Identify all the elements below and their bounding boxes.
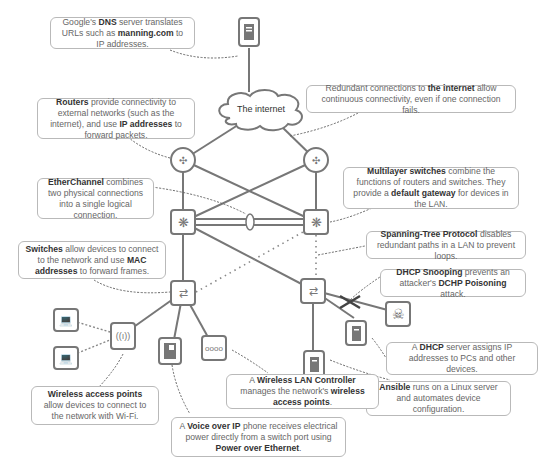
dns-server-node[interactable]: [238, 17, 260, 47]
laptop-1[interactable]: 💻: [53, 308, 79, 332]
switch-icon: ⇄: [309, 285, 318, 298]
switch-left[interactable]: ⇄: [170, 280, 196, 306]
note-wlc: A Wireless LAN Controller manages the ne…: [226, 374, 379, 409]
internet-label: The internet: [237, 104, 285, 114]
router-right[interactable]: ✣: [303, 147, 329, 173]
note-multilayer: Multilayer switches combine the function…: [343, 167, 519, 209]
note-switches: Switches allow devices to connect to the…: [18, 241, 166, 279]
multilayer-switch-icon: ❋: [178, 215, 189, 230]
multilayer-switch-icon: ❋: [311, 215, 322, 230]
wireless-ap-node[interactable]: ((ı)): [110, 322, 136, 350]
note-stp: Spanning-Tree Protocol disables redundan…: [366, 231, 526, 259]
wlc-node[interactable]: oooo: [201, 335, 227, 361]
switch-icon: ⇄: [179, 287, 188, 300]
laptop-icon: 💻: [59, 314, 73, 327]
note-redundant: Redundant connections to the internet al…: [306, 85, 516, 113]
note-dns: Google's DNS server translates URLs such…: [50, 17, 195, 49]
multilayer-switch-right[interactable]: ❋: [303, 209, 329, 235]
note-dhcp-server: A DHCP server assigns IP addresses to PC…: [386, 342, 538, 375]
ip-phone-node[interactable]: [158, 337, 182, 365]
switch-right[interactable]: ⇄: [300, 278, 326, 304]
router-icon: ✣: [312, 155, 320, 166]
note-etherchannel: EtherChannel combines two physical conne…: [37, 178, 154, 219]
wireless-ap-icon: ((ı)): [116, 331, 131, 341]
server-icon: [310, 357, 319, 372]
note-ansible: Ansible runs on a Linux server and autom…: [366, 381, 511, 416]
note-voip: A Voice over IP phone receives electrica…: [171, 417, 346, 457]
note-wap: Wireless access points allow devices to …: [31, 386, 159, 425]
ip-phone-icon: [164, 343, 176, 359]
router-icon: ✣: [179, 155, 187, 166]
laptop-icon: 💻: [59, 352, 73, 365]
server-icon: [352, 326, 361, 341]
note-dhcp-snooping: DHCP Snooping prevents an attacker's DCH…: [380, 269, 526, 297]
note-routers: Routers provide connectivity to external…: [37, 98, 195, 139]
dhcp-server-node[interactable]: [345, 320, 367, 346]
attacker-node[interactable]: ☠: [385, 301, 411, 327]
router-left[interactable]: ✣: [170, 147, 196, 173]
multilayer-switch-left[interactable]: ❋: [170, 209, 196, 235]
laptop-2[interactable]: 💻: [53, 346, 79, 370]
dns-server-icon: [244, 24, 254, 40]
skull-icon: ☠: [392, 306, 405, 322]
wlc-icon: oooo: [205, 344, 223, 353]
